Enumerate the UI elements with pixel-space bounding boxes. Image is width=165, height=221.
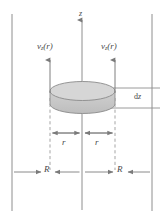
radius-label-r-left: r [62,138,66,147]
velocity-label-right: vz(r) [101,42,117,52]
velocity-label-left: vz(r) [37,42,53,52]
axis-label-z: z [79,10,82,18]
pipe-radius-label-R-left: R [44,165,50,174]
figure-container: · · [0,0,165,221]
disk-element [50,82,115,114]
thickness-label-z: z [138,92,141,101]
radius-label-r-right: r [95,138,99,147]
diagram-canvas [0,0,165,221]
thickness-label-dz: dz [134,93,141,101]
velocity-label-right-argument: (r) [107,41,117,51]
velocity-label-left-argument: (r) [43,41,53,51]
pipe-radius-label-R-right: R [117,165,123,174]
